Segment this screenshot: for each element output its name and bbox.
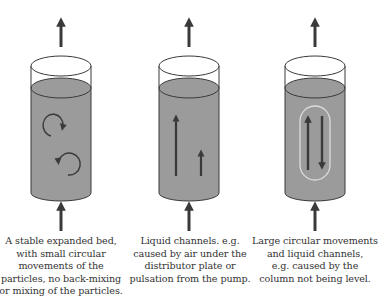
column-top-rim: [31, 56, 91, 76]
caption-liquid-channels: Liquid channels. e.g. caused by air unde…: [126, 235, 254, 285]
caption-line: movements of the: [0, 260, 125, 273]
caption-line: Liquid channels. e.g.: [126, 235, 254, 248]
caption-large-circular: Large circular movements and liquid chan…: [251, 235, 379, 285]
column-top-rim: [159, 56, 219, 76]
caption-line: distributor plate or: [126, 260, 254, 273]
caption-stable-bed: A stable expanded bed, with small circul…: [0, 235, 125, 298]
caption-line: with small circular: [0, 248, 125, 261]
caption-line: e.g. caused by the: [251, 260, 379, 273]
column-top-rim: [285, 56, 345, 76]
liquid-surface: [31, 78, 91, 98]
caption-line: caused by air under the: [126, 248, 254, 261]
caption-line: or mixing of the particles.: [0, 285, 125, 298]
liquid-fill: [31, 88, 91, 201]
liquid-fill: [285, 88, 345, 201]
liquid-fill: [159, 88, 219, 201]
column-liquid-channels: [159, 22, 219, 231]
caption-line: Large circular movements: [251, 235, 379, 248]
column-large-circular: [285, 22, 345, 231]
column-stable-bed: [31, 22, 91, 231]
caption-line: particles, no back-mixing: [0, 273, 125, 286]
caption-line: pulsation from the pump.: [126, 273, 254, 286]
liquid-surface: [285, 78, 345, 98]
caption-line: A stable expanded bed,: [0, 235, 125, 248]
caption-line: column not being level.: [251, 273, 379, 286]
liquid-surface: [159, 78, 219, 98]
caption-line: and liquid channels,: [251, 248, 379, 261]
